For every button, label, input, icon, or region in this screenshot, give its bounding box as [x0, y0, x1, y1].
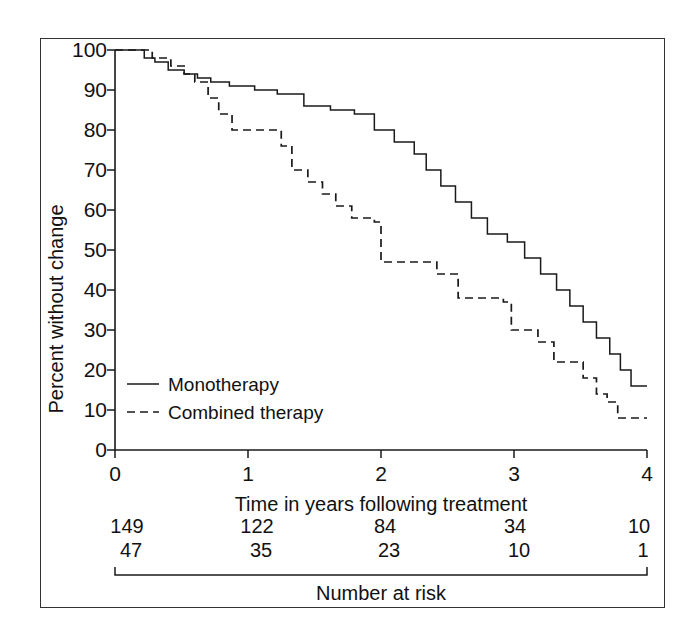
x-tick-label: 3	[508, 462, 520, 485]
risk-value: 35	[250, 539, 272, 561]
y-tick-label: 50	[84, 238, 107, 261]
y-tick-label: 0	[95, 438, 107, 461]
x-tick-label: 4	[641, 462, 653, 485]
y-tick-label: 10	[84, 398, 107, 421]
x-axis-title: Time in years following treatment	[235, 493, 528, 515]
survival-chart: Percent without change 100 90 80 70 60 5…	[41, 39, 664, 607]
y-tick-label: 40	[84, 278, 107, 301]
risk-value: 47	[120, 539, 142, 561]
y-axis-title: Percent without change	[45, 204, 67, 413]
y-tick-label: 100	[72, 39, 107, 61]
x-tick-labels: 0 1 2 3 4	[109, 462, 653, 485]
series-line-combined-therapy	[115, 50, 647, 418]
y-tick-label: 60	[84, 198, 107, 221]
x-tick-marks	[115, 450, 647, 458]
y-tick-label: 20	[84, 358, 107, 381]
figure-frame: Percent without change 100 90 80 70 60 5…	[40, 38, 665, 608]
y-tick-label: 80	[84, 118, 107, 141]
risk-value: 122	[240, 515, 273, 537]
x-tick-label: 0	[109, 462, 121, 485]
risk-value: 1	[637, 539, 648, 561]
risk-value: 149	[110, 515, 143, 537]
risk-value: 34	[504, 515, 526, 537]
x-tick-label: 1	[242, 462, 254, 485]
series-line-monotherapy	[115, 50, 647, 386]
risk-table-caption: Number at risk	[316, 582, 447, 604]
legend-label-monotherapy: Monotherapy	[168, 374, 279, 395]
y-tick-label: 30	[84, 318, 107, 341]
y-tick-label: 90	[84, 78, 107, 101]
risk-row-monotherapy: 149 122 84 34 10	[110, 515, 650, 537]
risk-value: 10	[508, 539, 530, 561]
x-tick-label: 2	[375, 462, 387, 485]
risk-value: 84	[374, 515, 396, 537]
y-tick-marks	[107, 50, 115, 450]
risk-row-combined-therapy: 47 35 23 10 1	[120, 539, 649, 561]
legend-label-combined-therapy: Combined therapy	[168, 402, 324, 423]
chart-legend: Monotherapy Combined therapy	[127, 374, 324, 423]
y-tick-labels: 100 90 80 70 60 50 40 30 20 10 0	[72, 39, 107, 461]
risk-value: 23	[378, 539, 400, 561]
risk-table-bracket	[115, 567, 647, 575]
risk-value: 10	[628, 515, 650, 537]
y-tick-label: 70	[84, 158, 107, 181]
